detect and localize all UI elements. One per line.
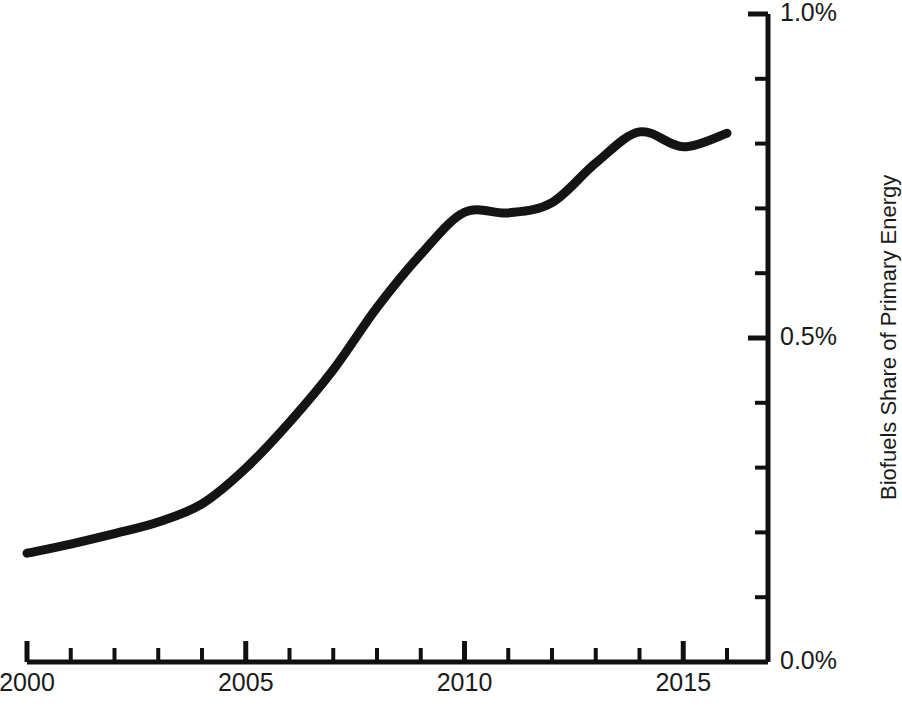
y-axis-tick-label: 0.5%	[780, 322, 837, 351]
y-axis-tick-label: 0.0%	[780, 646, 837, 675]
data-series-group	[27, 132, 727, 553]
x-axis-ticks	[27, 641, 727, 662]
x-axis-tick-label: 2005	[201, 668, 291, 697]
y-axis-ticks	[748, 14, 768, 597]
y-axis-title: Biofuels Share of Primary Energy	[876, 175, 902, 500]
x-axis-tick-label: 2010	[420, 668, 510, 697]
axis-lines	[27, 14, 768, 662]
x-axis-tick-label: 2000	[0, 668, 72, 697]
x-axis-tick-label: 2015	[638, 668, 728, 697]
series-line-0	[27, 132, 727, 553]
y-axis-tick-label: 1.0%	[780, 0, 837, 27]
